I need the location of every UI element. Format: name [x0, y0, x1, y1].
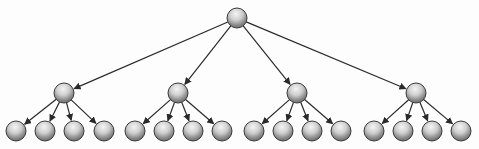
tree-node-mid-3: [287, 83, 307, 103]
tree-node-leaf-3-4: [331, 121, 351, 141]
tree-node-leaf-1-1: [6, 121, 26, 141]
edge-mid-2-to-leaf-1: [143, 100, 170, 124]
tree-node-leaf-2-2: [154, 121, 174, 141]
tree-node-leaf-4-4: [451, 121, 471, 141]
edge-root-to-mid-1: [74, 22, 228, 89]
tree-node-leaf-3-1: [244, 121, 264, 141]
edge-mid-2-to-leaf-2: [168, 102, 175, 120]
edge-mid-1-to-leaf-2: [50, 102, 60, 121]
tree-diagram-canvas: [0, 0, 479, 149]
tree-node-leaf-3-3: [302, 121, 322, 141]
tree-diagram: [0, 0, 479, 149]
edge-mid-3-to-leaf-3: [301, 102, 308, 121]
edges-group: [25, 22, 453, 124]
nodes-group: [6, 8, 471, 141]
edge-root-to-mid-3: [243, 26, 290, 85]
tree-node-leaf-2-3: [183, 121, 203, 141]
edge-mid-3-to-leaf-4: [305, 100, 333, 124]
tree-node-leaf-3-2: [273, 121, 293, 141]
edge-mid-4-to-leaf-1: [382, 100, 408, 124]
edge-root-to-mid-4: [246, 22, 406, 89]
edge-mid-1-to-leaf-3: [67, 103, 72, 121]
edge-mid-1-to-leaf-4: [71, 100, 96, 124]
edge-mid-3-to-leaf-2: [287, 102, 294, 120]
tree-node-mid-4: [406, 83, 426, 103]
tree-node-leaf-1-3: [64, 121, 84, 141]
tree-node-root: [227, 8, 247, 28]
edge-mid-1-to-leaf-1: [25, 99, 57, 124]
tree-node-leaf-4-3: [422, 121, 442, 141]
edge-mid-4-to-leaf-3: [420, 102, 428, 121]
tree-node-mid-1: [54, 83, 74, 103]
edge-mid-2-to-leaf-4: [186, 100, 214, 124]
edge-mid-4-to-leaf-2: [407, 103, 413, 121]
edge-root-to-mid-2: [185, 26, 231, 85]
tree-node-leaf-2-1: [125, 121, 145, 141]
tree-node-leaf-4-1: [364, 121, 384, 141]
tree-node-leaf-1-2: [35, 121, 55, 141]
edge-mid-3-to-leaf-1: [262, 100, 289, 124]
tree-node-leaf-4-2: [393, 121, 413, 141]
tree-node-leaf-1-4: [94, 121, 114, 141]
edge-mid-2-to-leaf-3: [182, 102, 189, 121]
tree-node-mid-2: [168, 83, 188, 103]
tree-node-leaf-2-4: [212, 121, 232, 141]
